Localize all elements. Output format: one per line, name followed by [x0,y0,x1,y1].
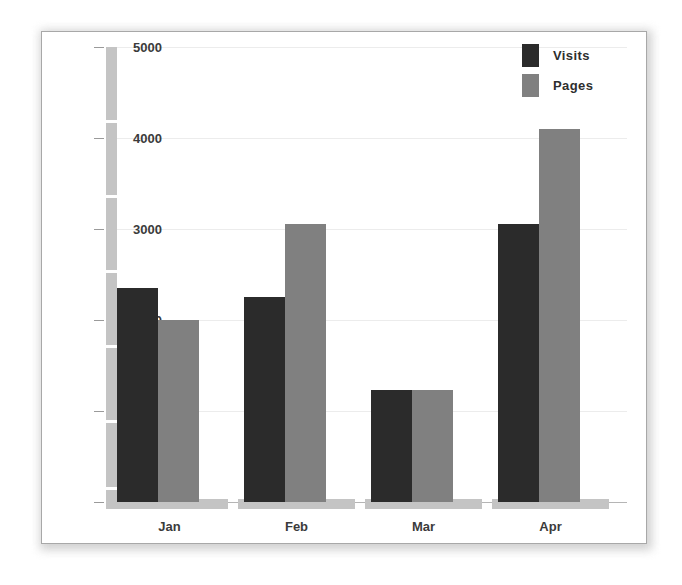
legend-swatch-visits [522,44,539,67]
y-axis-scrollbar-gap [106,345,117,348]
bar-pages-apr[interactable] [539,129,580,502]
legend-label-pages: Pages [553,78,593,93]
y-axis-scrollbar-gap [106,270,117,273]
y-axis-scrollbar-gap [106,420,117,423]
legend-entry-visits[interactable]: Visits [522,40,630,70]
xtick-label-mar: Mar [365,519,482,534]
chart-panel: 5000 4000 3000 2000 1000 0 [41,31,647,544]
y-axis-scrollbar-gap [106,487,117,490]
chart-legend: Visits Pages [522,40,630,100]
legend-entry-pages[interactable]: Pages [522,70,630,100]
bar-visits-feb[interactable] [244,297,285,502]
y-axis-scrollbar-gap [106,120,117,123]
bar-visits-apr[interactable] [498,224,539,502]
bar-visits-mar[interactable] [371,390,412,502]
xtick-label-feb: Feb [238,519,355,534]
y-axis-scrollbar-gap [106,195,117,198]
bar-visits-jan[interactable] [117,288,158,502]
y-axis-scrollbar[interactable] [106,47,117,502]
chart-root: 5000 4000 3000 2000 1000 0 [0,0,682,585]
xtick-label-jan: Jan [111,519,228,534]
bar-pages-jan[interactable] [158,320,199,502]
bar-pages-feb[interactable] [285,224,326,502]
bar-pages-mar[interactable] [412,390,453,502]
legend-label-visits: Visits [553,48,590,63]
xtick-label-apr: Apr [492,519,609,534]
legend-swatch-pages [522,74,539,97]
plot-area: 5000 4000 3000 2000 1000 0 [42,32,648,545]
